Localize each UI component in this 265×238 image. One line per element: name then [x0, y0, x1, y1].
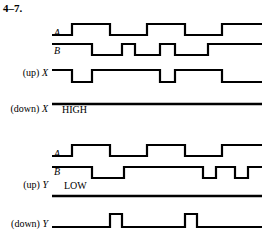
signal-label-top-down-x: (down) X	[11, 104, 49, 114]
waveform-canvas	[0, 0, 265, 238]
signal-label-name-top-up-x: X	[42, 67, 48, 78]
signal-label-name-bot-down-y: Y	[42, 218, 48, 229]
signal-label-name-top-a: A	[54, 27, 60, 38]
waveform-bot-a	[52, 145, 262, 156]
signal-label-name-bot-a: A	[54, 148, 60, 159]
signal-label-prefix-top-up-x: (up)	[23, 67, 42, 78]
waveform-bot-down-y	[52, 214, 262, 227]
signal-label-prefix-bot-up-y: (up)	[23, 179, 42, 190]
signal-label-top-a: A	[54, 28, 60, 38]
signal-label-prefix-top-down-x: (down)	[11, 103, 42, 114]
signal-label-top-b: B	[54, 46, 60, 56]
waveform-bot-b	[52, 167, 262, 178]
signal-label-top-up-x: (up) X	[23, 68, 48, 78]
signal-label-bot-up-y: (up) Y	[23, 180, 48, 190]
waveform-top-b	[52, 44, 262, 55]
waveform-top-up-x	[52, 70, 262, 82]
level-text-bot-up-y: LOW	[64, 181, 87, 191]
signal-label-bot-b: B	[54, 167, 60, 177]
waveform-top-a	[52, 24, 262, 35]
signal-label-bot-a: A	[54, 149, 60, 159]
signal-label-prefix-bot-down-y: (down)	[11, 218, 42, 229]
signal-label-name-top-b: B	[54, 45, 60, 56]
signal-label-name-bot-b: B	[54, 166, 60, 177]
signal-label-name-top-down-x: X	[42, 103, 48, 114]
level-text-top-down-x: HIGH	[62, 105, 87, 115]
timing-diagram-figure: 4–7. AB(up) X(down) XHIGHAB(up) YLOW(dow…	[0, 0, 265, 238]
signal-label-bot-down-y: (down) Y	[11, 219, 48, 229]
signal-label-name-bot-up-y: Y	[42, 179, 48, 190]
